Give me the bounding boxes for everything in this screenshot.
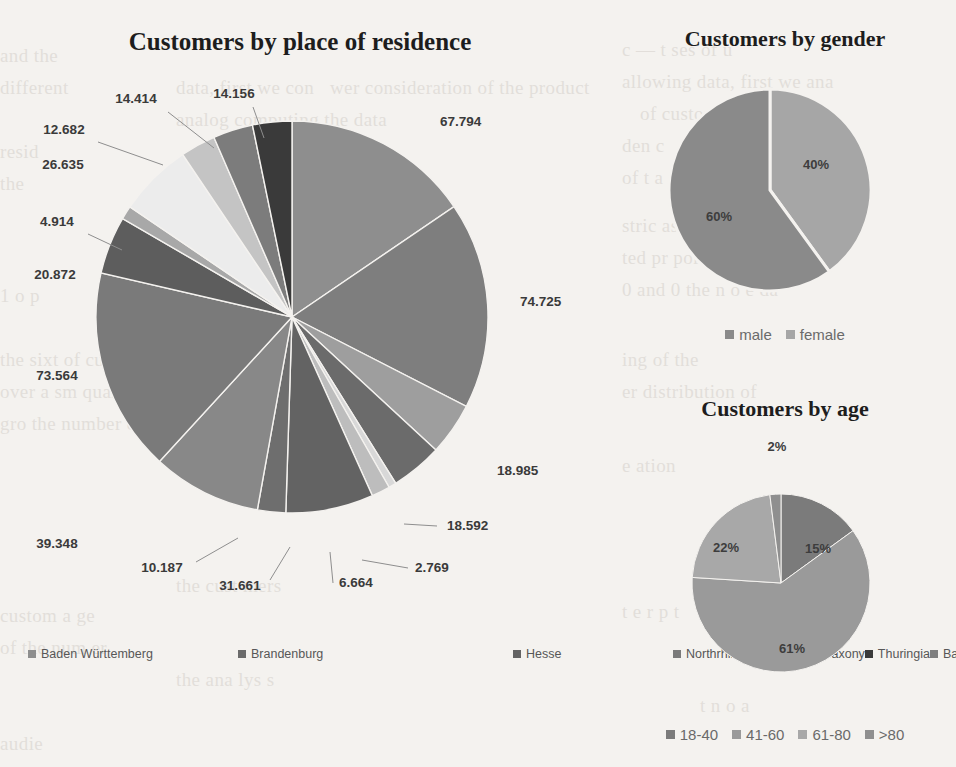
leader-line: [98, 142, 163, 165]
pie-data-label: 14.156: [213, 86, 255, 101]
residence-legend: Baden WürttembergBrandenburgHesseNorthrh…: [28, 645, 648, 662]
pie-data-label: 61%: [779, 641, 805, 656]
pie-data-label: 31.661: [219, 578, 261, 593]
legend-label: 41-60: [746, 726, 784, 743]
pie-data-label: 39.348: [36, 536, 78, 551]
gender-pie-chart: 40%60%: [620, 55, 950, 325]
legend-item[interactable]: 61-80: [798, 726, 850, 743]
legend-swatch: [798, 730, 807, 739]
legend-item[interactable]: 41-60: [732, 726, 784, 743]
pie-data-label: 22%: [713, 540, 739, 555]
legend-label: male: [739, 326, 772, 343]
gender-chart-title: Customers by gender: [620, 26, 950, 52]
legend-label: Baden Württemberg: [41, 647, 153, 661]
leader-line: [196, 538, 238, 562]
pie-data-label: 26.635: [42, 157, 84, 172]
pie-slice: [692, 495, 781, 583]
pie-data-label: 12.682: [43, 122, 84, 137]
legend-swatch: [666, 730, 675, 739]
legend-label: Brandenburg: [251, 647, 323, 661]
legend-swatch: [513, 650, 521, 658]
legend-label: female: [800, 326, 845, 343]
pie-data-label: 18.592: [447, 518, 488, 533]
pie-data-label: 14.414: [115, 91, 157, 106]
age-legend: 18-4041-6061-80>80: [620, 726, 950, 743]
leader-line: [270, 547, 290, 580]
pie-data-label: 20.872: [34, 267, 75, 282]
leader-line: [404, 524, 437, 526]
pie-data-label: 10.187: [141, 560, 182, 575]
legend-label: 61-80: [812, 726, 850, 743]
pie-data-label: 18.985: [497, 463, 539, 478]
leader-line: [330, 552, 333, 583]
gender-pie-slices: [669, 89, 871, 291]
gender-legend: malefemale: [620, 326, 950, 343]
legend-label: >80: [879, 726, 904, 743]
legend-item[interactable]: Baden Württemberg: [28, 647, 238, 661]
legend-item[interactable]: Brandenburg: [238, 647, 513, 661]
leader-line: [362, 560, 408, 568]
legend-swatch: [732, 730, 741, 739]
age-chart-title: Customers by age: [620, 396, 950, 422]
pie-data-label: 74.725: [520, 294, 562, 309]
age-pie-chart: 15%61%22%2%: [620, 425, 950, 725]
legend-swatch: [786, 330, 795, 339]
legend-label: 18-40: [680, 726, 718, 743]
legend-item[interactable]: >80: [865, 726, 904, 743]
legend-item[interactable]: female: [786, 326, 845, 343]
pie-data-label: 67.794: [440, 114, 482, 129]
pie-data-label: 73.564: [36, 368, 78, 383]
residence-pie-chart: 67.79474.72518.98518.5922.7696.66431.661…: [0, 60, 600, 630]
legend-swatch: [238, 650, 246, 658]
legend-swatch: [28, 650, 36, 658]
legend-label: Hesse: [526, 647, 561, 661]
pie-data-label: 60%: [706, 209, 732, 224]
pie-data-label: 40%: [803, 157, 829, 172]
pie-data-label: 6.664: [339, 575, 373, 590]
pie-data-label: 2.769: [415, 560, 449, 575]
legend-item[interactable]: 18-40: [666, 726, 718, 743]
pie-data-label: 2%: [768, 439, 787, 454]
legend-item[interactable]: male: [725, 326, 772, 343]
residence-chart-title: Customers by place of residence: [20, 28, 580, 56]
residence-pie-slices: [96, 121, 488, 513]
pie-data-label: 4.914: [40, 214, 74, 229]
pie-data-label: 15%: [805, 541, 831, 556]
legend-swatch: [725, 330, 734, 339]
legend-swatch: [865, 730, 874, 739]
leader-line: [168, 112, 214, 148]
